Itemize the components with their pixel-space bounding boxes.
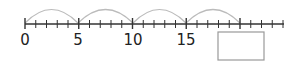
number-line-diagram: 0 5 10 15 — [0, 0, 297, 64]
label-5: 5 — [73, 31, 83, 49]
label-15: 15 — [176, 31, 195, 49]
jump-arc-10-15 — [133, 10, 186, 24]
jump-arc-15-20 — [186, 10, 240, 24]
jump-arc-0-5 — [25, 10, 78, 24]
answer-box[interactable] — [218, 32, 264, 60]
label-10: 10 — [123, 31, 142, 49]
label-0: 0 — [20, 31, 30, 49]
jump-arc-5-10 — [78, 10, 133, 24]
tick-labels: 0 5 10 15 — [20, 31, 195, 49]
